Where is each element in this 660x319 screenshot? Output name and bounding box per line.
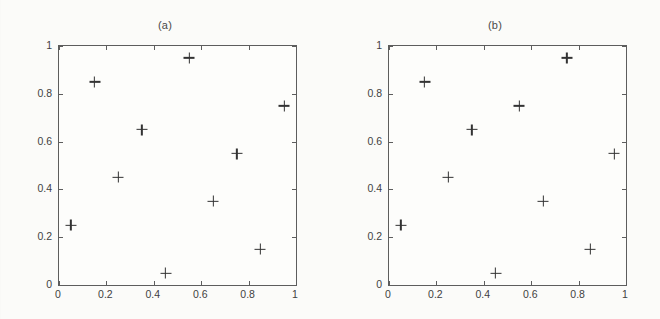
- data-point-marker: [395, 220, 406, 231]
- x-tick-mark: [201, 46, 202, 50]
- data-point-marker: [231, 148, 242, 159]
- x-tick-label: 0.6: [523, 288, 538, 300]
- x-tick-mark: [106, 281, 107, 285]
- y-tick-mark: [59, 46, 63, 47]
- y-tick-mark: [622, 94, 626, 95]
- x-tick-label: 0.2: [98, 288, 113, 300]
- y-tick-label: 0.2: [342, 230, 382, 242]
- y-tick-mark: [292, 46, 296, 47]
- x-tick-mark: [626, 281, 627, 285]
- y-tick-label: 0: [12, 278, 52, 290]
- data-point-marker: [538, 196, 549, 207]
- y-tick-label: 0.6: [342, 135, 382, 147]
- panel-a-title: (a): [0, 19, 330, 31]
- y-tick-mark: [389, 237, 393, 238]
- x-tick-label: 1: [292, 288, 298, 300]
- x-tick-mark: [154, 46, 155, 50]
- y-tick-label: 0.2: [12, 230, 52, 242]
- panel-a-axes: [58, 45, 297, 286]
- x-tick-mark: [626, 46, 627, 50]
- y-tick-mark: [389, 142, 393, 143]
- x-tick-mark: [579, 46, 580, 50]
- data-point-marker: [609, 148, 620, 159]
- data-point-marker: [490, 268, 501, 279]
- x-tick-mark: [531, 46, 532, 50]
- x-tick-label: 1: [622, 288, 628, 300]
- data-point-marker: [65, 220, 76, 231]
- x-tick-mark: [579, 281, 580, 285]
- x-tick-label: 0.8: [570, 288, 585, 300]
- y-tick-mark: [59, 142, 63, 143]
- data-point-marker: [443, 172, 454, 183]
- y-tick-label: 0.6: [12, 135, 52, 147]
- x-tick-mark: [106, 46, 107, 50]
- y-tick-mark: [292, 285, 296, 286]
- data-point-marker: [208, 196, 219, 207]
- x-tick-label: 0.2: [428, 288, 443, 300]
- y-tick-mark: [389, 46, 393, 47]
- y-tick-mark: [292, 189, 296, 190]
- x-tick-mark: [484, 281, 485, 285]
- y-tick-mark: [622, 46, 626, 47]
- y-tick-label: 0.4: [12, 182, 52, 194]
- x-tick-mark: [531, 281, 532, 285]
- x-tick-mark: [436, 46, 437, 50]
- data-point-marker: [561, 52, 572, 63]
- y-tick-mark: [622, 189, 626, 190]
- y-tick-mark: [389, 189, 393, 190]
- y-tick-mark: [622, 142, 626, 143]
- data-point-marker: [184, 52, 195, 63]
- data-point-marker: [585, 244, 596, 255]
- panel-a: (a) 00.20.40.60.8100.20.40.60.81: [0, 0, 330, 319]
- x-tick-mark: [154, 281, 155, 285]
- y-tick-mark: [622, 237, 626, 238]
- x-tick-mark: [296, 46, 297, 50]
- x-tick-mark: [201, 281, 202, 285]
- y-tick-mark: [389, 285, 393, 286]
- data-point-marker: [514, 100, 525, 111]
- data-point-marker: [113, 172, 124, 183]
- scatter-plot-figure: (a) 00.20.40.60.8100.20.40.60.81 (b) 00.…: [0, 0, 660, 319]
- x-tick-mark: [484, 46, 485, 50]
- x-tick-label: 0: [55, 288, 61, 300]
- y-tick-mark: [292, 94, 296, 95]
- x-tick-mark: [249, 281, 250, 285]
- data-point-marker: [89, 76, 100, 87]
- x-tick-label: 0.6: [193, 288, 208, 300]
- data-point-marker: [279, 100, 290, 111]
- y-tick-label: 0: [342, 278, 382, 290]
- y-tick-mark: [59, 285, 63, 286]
- panel-b-title: (b): [330, 19, 660, 31]
- y-tick-mark: [59, 94, 63, 95]
- data-point-marker: [466, 124, 477, 135]
- y-tick-mark: [59, 189, 63, 190]
- panel-b: (b) 00.20.40.60.8100.20.40.60.81: [330, 0, 660, 319]
- y-tick-mark: [389, 94, 393, 95]
- panel-b-axes: [388, 45, 627, 286]
- y-tick-label: 0.8: [12, 87, 52, 99]
- data-point-marker: [419, 76, 430, 87]
- y-tick-mark: [59, 237, 63, 238]
- y-tick-mark: [622, 285, 626, 286]
- y-tick-label: 1: [12, 39, 52, 51]
- x-tick-mark: [436, 281, 437, 285]
- data-point-marker: [136, 124, 147, 135]
- y-tick-label: 0.8: [342, 87, 382, 99]
- x-tick-label: 0: [385, 288, 391, 300]
- x-tick-mark: [249, 46, 250, 50]
- x-tick-label: 0.8: [240, 288, 255, 300]
- y-tick-label: 0.4: [342, 182, 382, 194]
- y-tick-mark: [292, 237, 296, 238]
- y-tick-mark: [292, 142, 296, 143]
- data-point-marker: [160, 268, 171, 279]
- x-tick-label: 0.4: [475, 288, 490, 300]
- data-point-marker: [255, 244, 266, 255]
- x-tick-label: 0.4: [145, 288, 160, 300]
- x-tick-mark: [296, 281, 297, 285]
- y-tick-label: 1: [342, 39, 382, 51]
